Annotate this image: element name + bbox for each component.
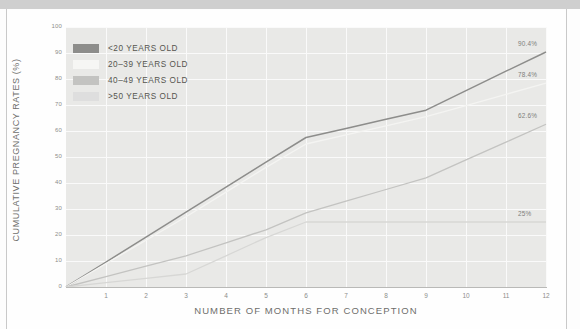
y-tick-label: 50 [38, 153, 62, 159]
y-tick-label: 80 [38, 75, 62, 81]
legend-item: 20–39 YEARS OLD [73, 57, 188, 72]
legend-swatch-over-50 [73, 92, 99, 101]
end-label-series-1: 78.4% [518, 71, 537, 78]
legend-swatch-under-20 [73, 44, 99, 53]
line-series-2 [66, 124, 546, 287]
scanned-page: CUMULATIVE PREGNANCY RATES (%) 010203040… [0, 0, 580, 329]
x-tick-label: 8 [371, 292, 401, 299]
x-tick-label: 9 [411, 292, 441, 299]
page-top-band [0, 0, 580, 9]
end-label-series-2: 62.6% [518, 112, 537, 119]
gridline-vertical [546, 27, 547, 287]
x-tick-label: 6 [291, 292, 321, 299]
y-tick-label: 10 [38, 257, 62, 263]
y-tick-label: 60 [38, 127, 62, 133]
x-tick-label: 1 [91, 292, 121, 299]
y-tick-label: 0 [38, 283, 62, 289]
legend-label-40-49: 40–49 YEARS OLD [108, 76, 188, 85]
x-tick-label: 5 [251, 292, 281, 299]
x-tick-label: 2 [131, 292, 161, 299]
page-right-border [566, 9, 567, 329]
x-tick-label: 3 [171, 292, 201, 299]
legend-swatch-40-49 [73, 76, 99, 85]
y-tick-label: 40 [38, 179, 62, 185]
y-axis-title: CUMULATIVE PREGNANCY RATES (%) [11, 30, 21, 270]
y-tick-label: 20 [38, 231, 62, 237]
line-series-3 [66, 222, 546, 287]
end-label-series-0: 90.4% [518, 40, 537, 47]
legend-item: 40–49 YEARS OLD [73, 73, 188, 88]
x-tick-label: 7 [331, 292, 361, 299]
page-left-border [6, 9, 7, 329]
y-axis-tick-labels: 0102030405060708090100 [34, 0, 62, 329]
line-series-1 [66, 83, 546, 287]
y-tick-label: 70 [38, 101, 62, 107]
x-axis-title: NUMBER OF MONTHS FOR CONCEPTION [66, 305, 546, 316]
x-tick-label: 4 [211, 292, 241, 299]
legend-item: >50 YEARS OLD [73, 89, 188, 104]
x-axis-line [66, 287, 547, 288]
legend: <20 YEARS OLD 20–39 YEARS OLD 40–49 YEAR… [73, 41, 188, 105]
legend-label-20-39: 20–39 YEARS OLD [108, 60, 188, 69]
x-tick-label: 11 [491, 292, 521, 299]
x-tick-label: 10 [451, 292, 481, 299]
y-tick-label: 100 [38, 23, 62, 29]
x-tick-label: 12 [531, 292, 561, 299]
y-tick-label: 30 [38, 205, 62, 211]
legend-item: <20 YEARS OLD [73, 41, 188, 56]
legend-label-over-50: >50 YEARS OLD [108, 92, 178, 101]
legend-swatch-20-39 [73, 60, 99, 69]
y-tick-label: 90 [38, 49, 62, 55]
end-label-series-3: 25% [518, 210, 531, 217]
legend-label-under-20: <20 YEARS OLD [108, 44, 178, 53]
